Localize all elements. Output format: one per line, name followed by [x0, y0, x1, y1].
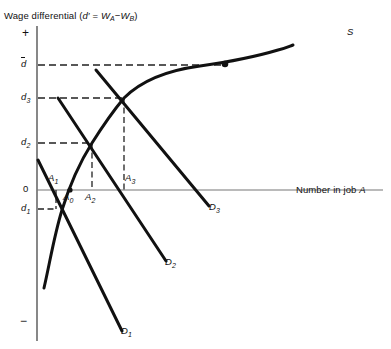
point-label-A1: A1	[48, 172, 58, 185]
curve-label-S: S	[347, 26, 353, 37]
dbar-equilibrium-dot	[222, 61, 229, 68]
y-axis-plus-sign: +	[22, 26, 29, 40]
point-A1-sub: 1	[54, 178, 58, 185]
point-label-A3: A3	[125, 172, 135, 185]
curve-D3-text: D	[209, 201, 216, 212]
demand-curve-D3	[96, 70, 209, 206]
y-axis-minus-sign: −	[20, 314, 27, 328]
curve-D1-text: D	[121, 325, 128, 336]
curve-label-D2: D2	[165, 256, 176, 269]
y-tick-d2-sub: 2	[26, 142, 30, 149]
point-A0-sub: 0	[69, 197, 73, 204]
curve-S-text: S	[347, 26, 353, 37]
curve-D3-sub: 3	[216, 207, 220, 214]
x-axis-label-italic: A	[359, 184, 365, 195]
point-label-A2: A2	[85, 191, 95, 204]
y-tick-label-dbar: d	[21, 58, 26, 69]
curve-label-D3: D3	[209, 201, 220, 214]
curve-D2-text: D	[165, 256, 172, 267]
curve-label-D1: D1	[121, 325, 132, 338]
point-A3-sub: 3	[131, 178, 135, 185]
curve-D2-sub: 2	[172, 262, 176, 269]
curve-D1-sub: 1	[128, 331, 132, 338]
y-tick-dbar-text: d	[21, 58, 26, 69]
y-tick-label-origin: 0	[23, 183, 28, 194]
plot-canvas	[0, 0, 391, 349]
y-tick-label-d3: d3	[21, 91, 30, 104]
point-label-A0: A0	[63, 191, 73, 204]
y-tick-label-d1: d1	[21, 202, 30, 215]
wage-differential-diagram: Wage differential (d′ = WA−WB)	[0, 0, 391, 349]
demand-curve-D1	[38, 160, 122, 331]
point-A2-sub: 2	[91, 197, 95, 204]
y-tick-d1-sub: 1	[26, 208, 30, 215]
y-tick-d3-sub: 3	[26, 97, 30, 104]
x-axis-label-text: Number in job	[296, 184, 359, 195]
y-tick-label-d2: d2	[21, 136, 30, 149]
x-axis-label: Number in job A	[296, 184, 366, 195]
